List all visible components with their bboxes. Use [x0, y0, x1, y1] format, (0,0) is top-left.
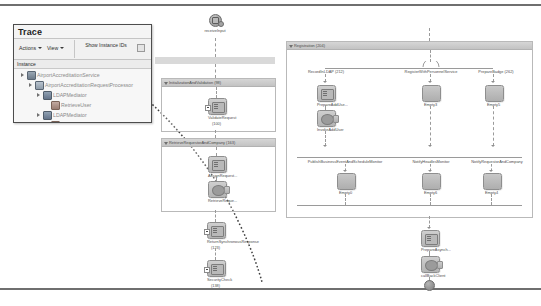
chevron-down-icon[interactable]: [164, 142, 168, 145]
tree-row-ldapmediator-2[interactable]: LDAPMediator: [14, 110, 151, 120]
activity-empty5[interactable]: Empty5: [485, 85, 502, 108]
scope-title: Registration (204): [294, 43, 325, 48]
activity-count: (138): [207, 284, 224, 289]
activity-prepareasynch[interactable]: PrepareAsynch...: [421, 230, 438, 253]
assign-activity-icon: [207, 260, 226, 277]
empty-activity-icon: [337, 173, 356, 190]
show-instance-ids-checkbox[interactable]: [137, 44, 145, 52]
instance-column-header: Instance: [14, 60, 151, 69]
activity-label: ReturnSynchronousResponse: [207, 240, 224, 245]
parallel-gateway-icon: [422, 61, 440, 68]
assign-activity-icon: [208, 156, 227, 173]
start-event-label: receiveInput: [193, 28, 237, 33]
connector: [216, 147, 217, 156]
activity-securitycheck[interactable]: SecurityCheck (138): [207, 260, 224, 288]
activity-empty3[interactable]: Empty3: [422, 85, 439, 108]
view-menu-button[interactable]: View: [47, 45, 64, 51]
activity-invokeadduser[interactable]: InvokeAddUser: [317, 110, 334, 133]
scope-title: InitializationAndValidation (98): [169, 80, 221, 85]
receive-event-icon: [209, 14, 222, 27]
tree-row-airportaccreditationservice[interactable]: AirportAccreditationService: [14, 70, 151, 80]
branch-join-line: [297, 205, 522, 206]
invoke-activity-icon: [208, 181, 227, 198]
connector: [215, 210, 216, 222]
top-divider: [0, 4, 541, 6]
scope-registration[interactable]: Registration (204) RecordInLDAP (212) Re…: [286, 41, 533, 218]
end-event[interactable]: [423, 280, 436, 291]
empty-activity-icon: [422, 173, 441, 190]
toolbar-divider: [74, 40, 75, 58]
activity-count: (100): [208, 122, 225, 127]
chevron-down-icon: [60, 47, 64, 49]
tree-row-adduser[interactable]: AddUser: [14, 120, 151, 124]
show-instance-ids-label: Show Instance IDs: [80, 42, 132, 49]
activity-label: RetrieveReque...: [208, 199, 225, 204]
end-event-icon: [424, 280, 435, 291]
scope-retrieve-requestor-and-company[interactable]: RetrieveRequestorAndCompany (163) Assign…: [161, 138, 276, 212]
branch-split-line-2: [297, 157, 522, 158]
branch-header-notifyrequestorandcompany: NotifyRequestorAndCompany: [463, 159, 531, 164]
invoke-activity-icon: [317, 110, 336, 127]
actions-menu-button[interactable]: Actions: [19, 45, 42, 51]
expand-triangle-icon[interactable]: [37, 113, 40, 117]
activity-validaterequest[interactable]: ValidateRequest (100): [208, 98, 225, 126]
tree-row-label: AirportAccreditationRequestProcessor: [45, 82, 133, 88]
tree-row-label: AddUser: [61, 122, 81, 124]
trace-toolbar: Actions View Show Instance IDs: [14, 38, 151, 60]
activity-label: ValidateRequest: [208, 116, 225, 121]
activity-label: SecurityCheck: [207, 278, 224, 283]
invoke-activity-icon: [421, 256, 440, 273]
empty-activity-icon: [483, 173, 502, 190]
connector: [215, 130, 216, 138]
tree-row-label: LDAPMediator: [53, 112, 87, 118]
connector: [215, 248, 216, 260]
activity-returnsynchronousresponse[interactable]: ReturnSynchronousResponse (123): [207, 222, 224, 250]
tree-row-ldapmediator-1[interactable]: LDAPMediator: [14, 90, 151, 100]
scope-header[interactable]: Registration (204): [287, 42, 532, 50]
connector: [215, 64, 216, 78]
operation-icon: [51, 121, 60, 123]
expand-triangle-icon[interactable]: [29, 83, 32, 87]
instance-tree[interactable]: AirportAccreditationService AirportAccre…: [14, 69, 151, 124]
diagram-canvas: receiveInput InitializationAndValidation…: [0, 0, 541, 306]
chevron-down-icon[interactable]: [164, 82, 168, 85]
connector: [215, 38, 216, 57]
activity-callbackclient[interactable]: callBackClient: [421, 256, 438, 279]
scope-initialization-and-validation[interactable]: InitializationAndValidation (98) Validat…: [161, 78, 276, 132]
expand-triangle-icon[interactable]: [21, 73, 24, 77]
assign-activity-icon: [317, 85, 336, 102]
collapsed-scope-band[interactable]: [155, 57, 275, 64]
chevron-down-icon: [38, 47, 42, 49]
scope-header[interactable]: RetrieveRequestorAndCompany (163): [162, 139, 275, 147]
tree-row-label: RetrieveUser: [61, 102, 91, 108]
connector: [429, 28, 430, 41]
expand-triangle-icon[interactable]: [37, 93, 40, 97]
activity-retrieverequest[interactable]: RetrieveReque...: [208, 181, 225, 204]
assign-activity-icon: [421, 230, 440, 247]
tree-row-airportaccreditationrequestprocessor[interactable]: AirportAccreditationRequestProcessor: [14, 80, 151, 90]
chevron-down-icon[interactable]: [289, 45, 293, 48]
tree-row-label: AirportAccreditationService: [37, 72, 100, 78]
empty-activity-icon: [485, 85, 504, 102]
trace-panel[interactable]: Trace Actions View Show Instance IDs Ins…: [13, 24, 152, 123]
bottom-divider: [0, 288, 541, 290]
assign-activity-icon: [208, 98, 227, 115]
tree-row-label: LDAPMediator: [53, 92, 87, 98]
branch-header-preparebadge: PrepareBadge (262): [462, 69, 530, 74]
branch-header-recordinldap: RecordInLDAP (212): [295, 69, 357, 74]
activity-empty0[interactable]: Empty0: [337, 173, 354, 196]
reply-activity-icon: [207, 222, 226, 239]
tree-row-retrieveuser[interactable]: RetrieveUser: [14, 100, 151, 110]
activity-empty4[interactable]: Empty4: [483, 173, 500, 196]
branch-header-notifyheadlesmonitor: NotifyHeadlesMonitor: [393, 159, 469, 164]
trace-panel-title: Trace: [14, 25, 151, 38]
start-event-receiveinput[interactable]: receiveInput: [193, 14, 237, 33]
scope-title: RetrieveRequestorAndCompany (163): [169, 140, 235, 145]
empty-activity-icon: [422, 85, 441, 102]
connector: [216, 87, 217, 98]
scope-header[interactable]: InitializationAndValidation (98): [162, 79, 275, 87]
activity-empty6[interactable]: Empty6: [422, 173, 439, 196]
